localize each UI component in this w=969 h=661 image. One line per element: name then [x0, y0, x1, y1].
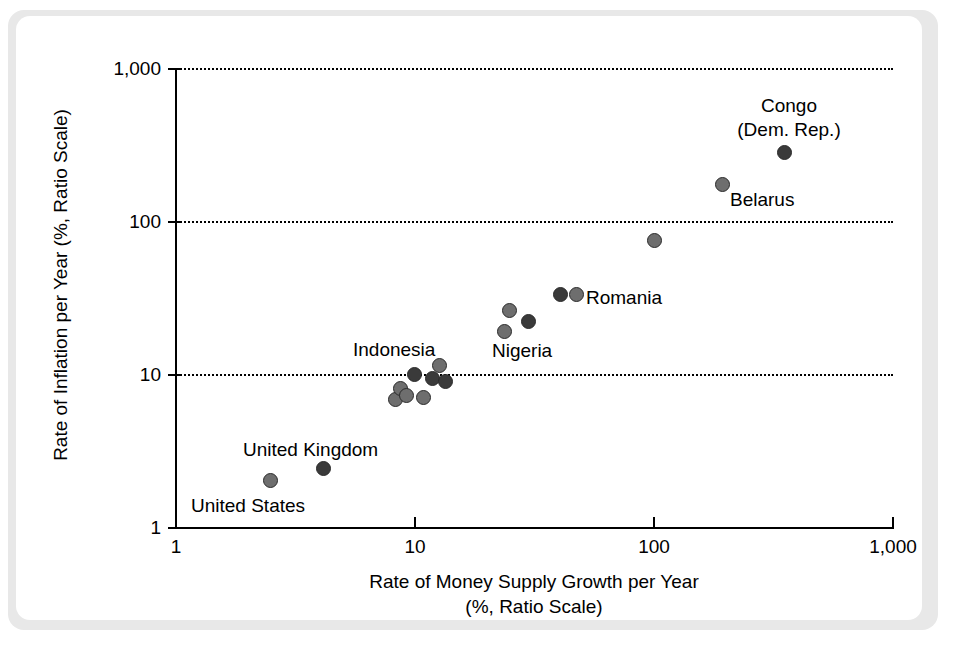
annotation-nigeria: Nigeria — [492, 339, 552, 363]
data-point-united-kingdom — [316, 461, 331, 476]
y-tick-mark-1000 — [168, 68, 180, 70]
data-point-6 — [416, 390, 431, 405]
chart-card: Rate of Inflation per Year (%, Ratio Sca… — [16, 16, 922, 620]
x-tick-label-10: 10 — [370, 536, 460, 558]
gridline-100 — [177, 221, 893, 223]
y-tick-mark-10 — [168, 374, 180, 376]
y-tick-label-100: 100 — [129, 211, 161, 233]
gridline-1000 — [177, 68, 893, 70]
annotation-united-kingdom: United Kingdom — [243, 438, 378, 462]
data-point-congo-dem-rep — [777, 145, 792, 160]
x-tick-mark-100 — [653, 517, 655, 529]
data-point-belarus — [715, 177, 730, 192]
data-point-4 — [399, 388, 414, 403]
y-tick-label-1000: 1,000 — [113, 58, 161, 80]
x-axis-title-line2: (%, Ratio Scale) — [175, 594, 893, 619]
data-point-10 — [497, 324, 512, 339]
x-axis-title-line1: Rate of Money Supply Growth per Year — [175, 569, 893, 594]
y-tick-label-10: 10 — [140, 364, 161, 386]
annotation-united-states: United States — [191, 494, 305, 518]
y-axis-title: Rate of Inflation per Year (%, Ratio Sca… — [50, 50, 72, 520]
annotation-indonesia: Indonesia — [353, 338, 435, 362]
data-point-15 — [647, 233, 662, 248]
data-point-nigeria — [521, 314, 536, 329]
annotation-congo: Congo (Dem. Rep.) — [704, 94, 874, 142]
x-tick-mark-1 — [175, 517, 177, 529]
data-point-11 — [502, 303, 517, 318]
y-tick-mark-1 — [168, 527, 180, 529]
x-tick-label-1: 1 — [131, 536, 221, 558]
data-point-romania — [569, 287, 584, 302]
x-tick-label-100: 100 — [609, 536, 699, 558]
annotation-romania: Romania — [586, 286, 662, 310]
annotation-belarus: Belarus — [730, 188, 794, 212]
y-tick-mark-100 — [168, 221, 180, 223]
x-axis-line — [175, 527, 894, 529]
data-point-united-states — [263, 473, 278, 488]
x-axis-title: Rate of Money Supply Growth per Year (%,… — [175, 569, 893, 619]
data-point-9 — [438, 374, 453, 389]
x-tick-mark-10 — [414, 517, 416, 529]
gridline-10 — [177, 374, 893, 376]
data-point-indonesia — [407, 367, 422, 382]
y-axis-line — [175, 68, 177, 529]
figure-root: Rate of Inflation per Year (%, Ratio Sca… — [0, 0, 969, 661]
x-tick-label-1000: 1,000 — [848, 536, 938, 558]
data-point-13 — [553, 287, 568, 302]
x-tick-mark-1000 — [892, 517, 894, 529]
